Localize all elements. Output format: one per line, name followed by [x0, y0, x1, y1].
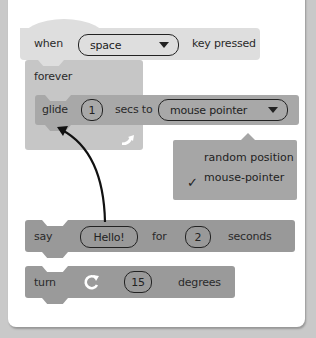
- annotation-arrow-icon: [0, 0, 316, 338]
